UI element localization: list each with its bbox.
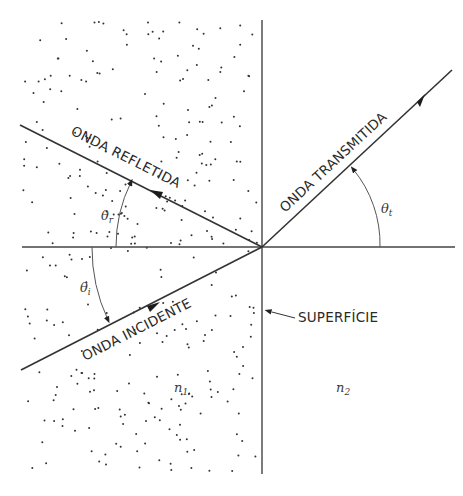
particle-dot [23, 165, 25, 167]
particle-dot [210, 388, 212, 390]
particle-dot [27, 316, 29, 318]
particle-dot [211, 236, 213, 238]
particle-dot [247, 75, 249, 77]
particle-dot [42, 129, 44, 131]
particle-dot [24, 80, 26, 82]
particle-dot [79, 169, 81, 171]
particle-dot [251, 230, 253, 232]
particle-dot [47, 232, 49, 234]
particle-dot [156, 376, 158, 378]
particle-dot [254, 456, 256, 458]
particle-dot [231, 296, 233, 298]
particle-dot [111, 200, 113, 202]
particle-dot [38, 371, 40, 373]
particle-dot [127, 218, 129, 220]
particle-dot [232, 388, 234, 390]
particle-dot [92, 60, 94, 62]
particle-dot [227, 401, 229, 403]
particle-dot [36, 166, 38, 168]
particle-dot [207, 79, 209, 81]
particle-dot [239, 217, 241, 219]
particle-dot [186, 438, 188, 440]
particle-dot [80, 79, 82, 81]
particle-dot [163, 136, 165, 138]
particle-dot [79, 175, 81, 177]
particle-dot [99, 73, 101, 75]
particle-dot [91, 450, 93, 452]
particle-dot [212, 217, 214, 219]
particle-dot [202, 121, 204, 123]
particle-dot [179, 79, 181, 81]
particle-dot [34, 338, 36, 340]
particle-dot [196, 172, 198, 174]
particle-dot [46, 147, 48, 149]
particle-dot [117, 233, 119, 235]
particle-dot [97, 160, 99, 162]
particle-dot [120, 415, 122, 417]
particle-dot [187, 343, 189, 345]
particle-dot [165, 195, 167, 197]
particle-dot [198, 48, 200, 50]
particle-dot [179, 439, 181, 441]
reflected-wave-label: ONDA REFLETIDA [69, 122, 184, 191]
particle-dot [70, 197, 72, 199]
particle-dot [152, 31, 154, 33]
particle-dot [147, 21, 149, 23]
particle-dot [170, 469, 172, 471]
particle-dot [177, 374, 179, 376]
particle-dot [196, 320, 198, 322]
particle-dot [154, 416, 156, 418]
particle-dot [102, 194, 104, 196]
particle-dot [22, 189, 24, 191]
particle-dot [129, 354, 131, 356]
particle-dot [219, 71, 221, 73]
particle-dot [211, 329, 213, 331]
particle-dot [139, 467, 141, 469]
particle-dot [211, 284, 213, 286]
reflected-direction-arrow-icon [150, 190, 163, 199]
particle-dot [194, 184, 196, 186]
particle-dot [177, 55, 179, 57]
particle-dot [247, 190, 249, 192]
particle-dot [236, 161, 238, 163]
transmitted-wave-label: ONDA TRANSMITIDA [276, 108, 390, 215]
particle-dot [111, 119, 113, 121]
particle-dot [115, 443, 117, 445]
particle-dot [158, 37, 160, 39]
particle-dot [144, 443, 146, 445]
particle-dot [56, 386, 58, 388]
particle-dot [186, 134, 188, 136]
particle-dot [27, 400, 29, 402]
particle-dot [64, 275, 66, 277]
particle-dot [184, 200, 186, 202]
particle-dot [86, 50, 88, 52]
particle-dot [186, 451, 188, 453]
particle-dot [135, 433, 137, 435]
particle-dot [36, 121, 38, 123]
particle-dot [217, 391, 219, 393]
particle-dot [105, 464, 107, 466]
particle-dot [134, 243, 136, 245]
particle-dot [164, 210, 166, 212]
particle-dot [98, 21, 100, 23]
particle-dot [26, 269, 28, 271]
particle-dot [191, 234, 193, 236]
particle-dot [106, 172, 108, 174]
particle-dot [181, 323, 183, 325]
particle-dot [180, 240, 182, 242]
particle-dot [87, 186, 89, 188]
particle-dot [233, 116, 235, 118]
particle-dot [162, 302, 164, 304]
particle-dot [68, 334, 70, 336]
particle-dot [71, 259, 73, 261]
particle-dot [243, 90, 245, 92]
particle-dot [162, 208, 164, 210]
particle-dot [116, 390, 118, 392]
particle-dot [31, 201, 33, 203]
particle-dot [253, 312, 255, 314]
particle-dot [180, 409, 182, 411]
particle-dot [76, 108, 78, 110]
particle-dot [252, 377, 254, 379]
particle-dot [120, 118, 122, 120]
particle-dot [239, 161, 241, 163]
